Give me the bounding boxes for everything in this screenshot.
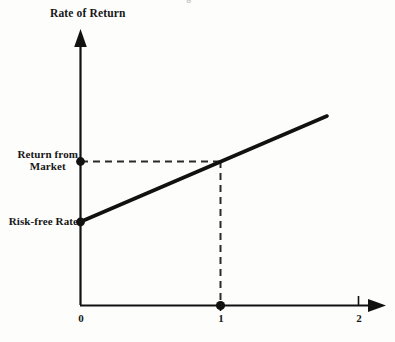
rate-of-return-chart: g Rate of Return Return from Market Risk… [0, 0, 395, 342]
x-tick-label-1: 1 [218, 312, 224, 324]
y-label-return-from-market-line1: Return from [18, 148, 78, 160]
y-label-risk-free-rate: Risk-free Rate [9, 215, 78, 227]
scan-artifact-glyph: g [186, 0, 195, 3]
x-axis-arrowhead [368, 299, 386, 312]
y-axis-title: Rate of Return [50, 7, 126, 20]
x-tick-label-0: 0 [78, 312, 84, 324]
beta-one-point [216, 301, 225, 310]
security-market-line [80, 116, 327, 222]
y-label-return-from-market: Return from Market [18, 148, 78, 173]
x-tick-label-2: 2 [356, 312, 362, 324]
y-axis-arrowhead [74, 29, 87, 47]
y-label-return-from-market-line2: Market [18, 160, 78, 172]
